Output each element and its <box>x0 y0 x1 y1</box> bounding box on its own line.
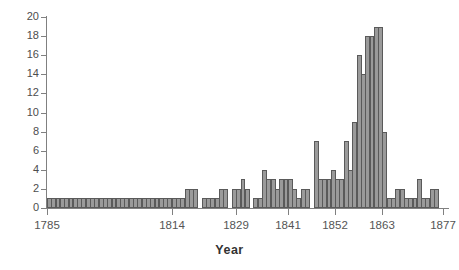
histogram-bar <box>434 189 439 208</box>
x-axis-tick-label: 1785 <box>17 219 77 232</box>
y-axis-tick-label: 4 <box>0 164 39 175</box>
y-axis-tick-label: 6 <box>0 145 39 156</box>
x-axis-tick-label: 1863 <box>352 219 412 232</box>
x-axis-tick <box>172 209 173 215</box>
x-axis-tick <box>382 209 383 215</box>
x-axis-tick <box>288 209 289 215</box>
histogram-bar <box>382 132 387 208</box>
histogram-bar <box>223 189 228 208</box>
histogram-bar <box>245 189 250 208</box>
y-axis-tick-label: 12 <box>0 87 39 98</box>
y-axis-tick-label: 0 <box>0 202 39 213</box>
y-axis-tick-label: 8 <box>0 126 39 137</box>
histogram-bar <box>193 189 198 208</box>
histogram-bar <box>305 189 310 208</box>
y-axis-tick-label: 18 <box>0 30 39 41</box>
y-axis-tick-label: 16 <box>0 49 39 60</box>
bars-container <box>47 17 447 208</box>
x-axis-tick <box>443 209 444 215</box>
x-axis-tick-label: 1829 <box>206 219 266 232</box>
y-axis-tick-label: 2 <box>0 183 39 194</box>
x-axis-tick <box>47 209 48 215</box>
y-axis-tick-label: 20 <box>0 11 39 22</box>
x-axis-tick-label: 1814 <box>142 219 202 232</box>
x-axis-title: Year <box>0 243 459 257</box>
histogram-chart: 02468101214161820 1785181418291841185218… <box>0 0 459 270</box>
x-axis-tick <box>236 209 237 215</box>
x-axis-tick <box>335 209 336 215</box>
x-axis-tick-label: 1877 <box>413 219 459 232</box>
x-axis-line <box>46 208 449 209</box>
y-axis-tick-label: 10 <box>0 107 39 118</box>
y-axis-tick-label: 14 <box>0 68 39 79</box>
